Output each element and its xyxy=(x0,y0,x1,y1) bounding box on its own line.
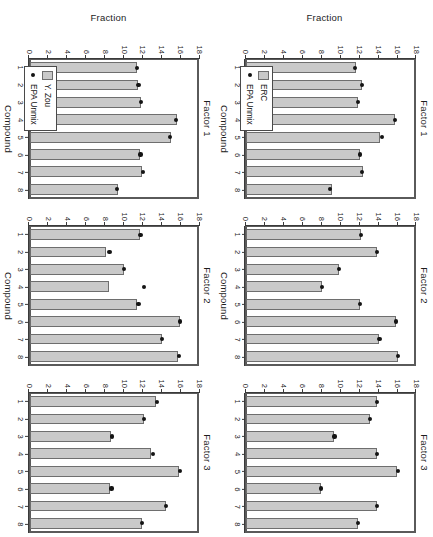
y-axis-label: Fraction xyxy=(90,12,126,23)
legend-bar-swatch-icon xyxy=(259,71,270,80)
data-point xyxy=(375,400,379,404)
y-tick-label: 10 xyxy=(120,213,128,221)
x-tick-label: 1 xyxy=(17,400,25,404)
y-tick-label: 8 xyxy=(317,217,325,221)
panel-title: Factor 3 xyxy=(200,372,214,533)
x-tick: 1 xyxy=(17,400,30,404)
x-tick: 4 xyxy=(17,452,30,456)
data-point xyxy=(375,504,379,508)
y-tick-label: 2 xyxy=(261,384,269,388)
x-tick: 3 xyxy=(233,435,246,439)
bar xyxy=(247,132,381,143)
x-tick-label: 2 xyxy=(233,250,241,254)
y-tick-label: 4 xyxy=(280,384,288,388)
panel-row2-factor1: Factor 1 024681012141618 12345678 Compou… xyxy=(0,36,217,203)
data-point xyxy=(151,452,155,456)
x-tick-label: 2 xyxy=(17,250,25,254)
y-tick-label: 6 xyxy=(82,217,90,221)
bar xyxy=(30,351,178,362)
x-tick-label: 8 xyxy=(17,188,25,192)
legend-label-yzou: Y. Zou xyxy=(43,84,52,107)
x-tick: 8 xyxy=(233,355,246,359)
data-point xyxy=(160,337,164,341)
x-tick-label: 7 xyxy=(233,338,241,342)
y-tick-label: 12 xyxy=(355,45,363,53)
data-point xyxy=(359,233,363,237)
panel-row2-factor2: Factor 2 024681012141618 12345678 Compou… xyxy=(0,203,217,370)
y-tick-label: 10 xyxy=(336,380,344,388)
x-tick-label: 4 xyxy=(233,452,241,456)
x-tick: 7 xyxy=(233,171,246,175)
bar xyxy=(247,501,377,512)
x-tick: 4 xyxy=(233,452,246,456)
y-tick-label: 12 xyxy=(355,213,363,221)
y-tick-label: 6 xyxy=(82,384,90,388)
legend-erc: ERC EPA Unmix xyxy=(241,66,274,131)
y-tick-label: 8 xyxy=(101,50,109,54)
panel-title: Factor 1 xyxy=(200,38,214,199)
data-point xyxy=(368,417,372,421)
x-tick: 8 xyxy=(233,522,246,526)
x-tick: 2 xyxy=(233,417,246,421)
x-tick: 5 xyxy=(17,136,30,140)
x-tick-label: 8 xyxy=(17,355,25,359)
bar xyxy=(30,448,151,459)
x-tick-label: 6 xyxy=(233,487,241,491)
x-axis-row1-factor3: 12345678 xyxy=(231,393,246,533)
y-tick-label: 18 xyxy=(412,45,420,53)
data-point xyxy=(356,100,360,104)
y-tick-label: 2 xyxy=(44,50,52,54)
data-point xyxy=(109,486,113,490)
x-tick: 7 xyxy=(17,505,30,509)
data-point xyxy=(353,66,357,70)
data-point xyxy=(110,434,114,438)
data-point xyxy=(393,118,397,122)
y-tick-label: 16 xyxy=(393,213,401,221)
bar xyxy=(247,166,364,177)
data-point xyxy=(168,135,172,139)
bar xyxy=(30,396,156,407)
legend-point-swatch-icon xyxy=(28,71,39,80)
data-point xyxy=(358,302,362,306)
y-tick-label: 4 xyxy=(280,50,288,54)
bar xyxy=(30,132,171,143)
x-tick-label: 7 xyxy=(233,171,241,175)
bar xyxy=(30,229,140,240)
y-tick-label: 0 xyxy=(242,50,250,54)
y-tick-label: 6 xyxy=(299,217,307,221)
x-tick: 6 xyxy=(17,153,30,157)
x-tick: 6 xyxy=(233,487,246,491)
data-point xyxy=(135,66,139,70)
y-axis-row1-factor3: 024681012141618 xyxy=(246,372,417,393)
x-axis-label: Compound xyxy=(219,226,231,366)
y-tick-label: 12 xyxy=(139,213,147,221)
data-point xyxy=(155,400,159,404)
y-tick-label: 6 xyxy=(299,50,307,54)
x-tick-label: 8 xyxy=(233,355,241,359)
y-axis-label-container-row2: Fraction xyxy=(0,0,217,36)
x-tick: 8 xyxy=(233,188,246,192)
x-tick-label: 2 xyxy=(17,417,25,421)
x-tick: 1 xyxy=(17,233,30,237)
x-tick-label: 7 xyxy=(17,505,25,509)
x-tick-label: 8 xyxy=(17,522,25,526)
x-tick: 2 xyxy=(17,250,30,254)
data-point xyxy=(396,469,400,473)
y-tick-label: 0 xyxy=(25,384,33,388)
bar xyxy=(247,299,360,310)
y-tick-label: 0 xyxy=(242,384,250,388)
data-point xyxy=(107,250,111,254)
panels-row2: Factor 1 024681012141618 12345678 Compou… xyxy=(0,36,217,537)
bar xyxy=(30,466,179,477)
bar xyxy=(247,149,360,160)
panels-row1: Factor 1 024681012141618 12345678 Compou… xyxy=(217,36,433,537)
data-point xyxy=(174,118,178,122)
x-tick-label: 6 xyxy=(17,153,25,157)
x-tick-label: 5 xyxy=(233,303,241,307)
data-point xyxy=(332,434,336,438)
x-tick-label: 3 xyxy=(17,268,25,272)
y-tick-label: 4 xyxy=(280,217,288,221)
y-tick-label: 12 xyxy=(355,380,363,388)
x-tick: 6 xyxy=(17,487,30,491)
y-axis-label-container-row1: Fraction xyxy=(217,0,433,36)
